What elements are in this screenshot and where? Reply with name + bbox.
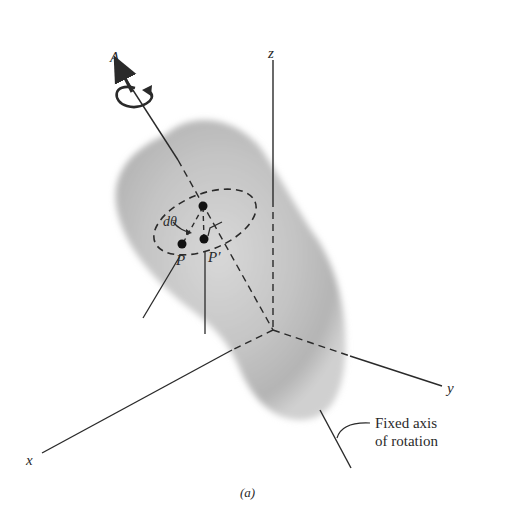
point-p-label: P [175,252,185,268]
fixed-axis-line [320,410,351,468]
point-p [178,240,187,249]
x-axis-label: x [25,452,33,468]
rigid-body-rotation-diagram: z y x A dθ P P′ Fixed axis of ro [0,0,514,514]
rotation-direction-icon [117,85,152,107]
figure-caption: (a) [240,485,255,500]
fixed-axis-callout [337,423,370,438]
point-p-prime-label: P′ [207,249,221,265]
rigid-body-shape [116,120,346,420]
z-axis-label: z [267,45,274,61]
d-theta-label: dθ [163,214,177,229]
annotation-line2: of rotation [375,433,438,449]
y-axis-label: y [445,380,454,396]
rotation-axis-label: A [109,49,120,65]
annotation-line1: Fixed axis [375,415,437,431]
point-p-prime [200,235,209,244]
center-point [199,202,208,211]
